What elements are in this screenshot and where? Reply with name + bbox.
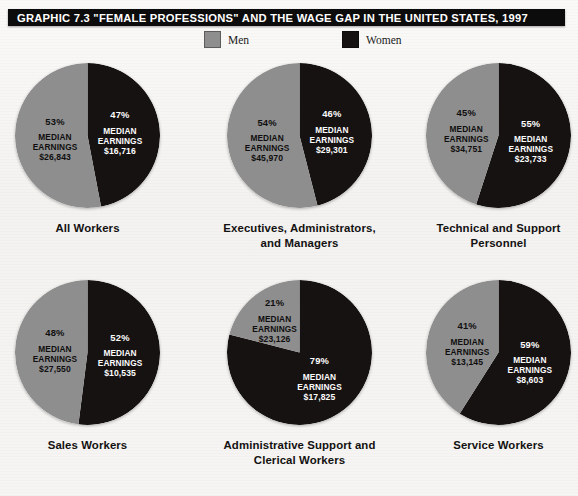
pie-chart-title: Service Workers xyxy=(402,438,578,453)
pie-chart-title: All Workers xyxy=(0,221,184,236)
pie-body xyxy=(426,63,571,208)
pie-chart-cell: 52%MEDIANEARNINGS$10,53548%MEDIANEARNING… xyxy=(0,272,184,453)
pie-chart: 59%MEDIANEARNINGS$8,60341%MEDIANEARNINGS… xyxy=(426,280,571,425)
pie-slice-women xyxy=(88,63,160,207)
pie-chart-title: Administrative Support andClerical Worke… xyxy=(203,438,396,467)
pie-chart-cell: 47%MEDIANEARNINGS$16,71653%MEDIANEARNING… xyxy=(0,55,184,236)
pie-chart-title: Executives, Administrators,and Managers xyxy=(203,221,396,250)
legend: Men Women xyxy=(0,31,578,51)
graphic-title-bar: GRAPHIC 7.3 "FEMALE PROFESSIONS" AND THE… xyxy=(8,9,565,26)
legend-item-women: Women xyxy=(342,31,401,48)
pie-chart-title-line: Technical and Support xyxy=(402,221,578,236)
pie-chart-cell: 79%MEDIANEARNINGS$17,82521%MEDIANEARNING… xyxy=(203,272,396,467)
pie-chart: 52%MEDIANEARNINGS$10,53548%MEDIANEARNING… xyxy=(15,280,160,425)
pie-slice-men xyxy=(15,280,88,424)
pie-chart-cell: 59%MEDIANEARNINGS$8,60341%MEDIANEARNINGS… xyxy=(402,272,578,453)
pie-body xyxy=(426,280,571,425)
page-title: GRAPHIC 7.3 "FEMALE PROFESSIONS" AND THE… xyxy=(8,12,528,24)
legend-item-men: Men xyxy=(204,31,249,48)
pie-chart-title: Sales Workers xyxy=(0,438,184,453)
pie-body xyxy=(15,280,160,425)
pie-body xyxy=(15,63,160,208)
pie-chart-title-line: and Managers xyxy=(203,236,396,251)
legend-label-men: Men xyxy=(228,34,249,46)
pie-chart-cell: 46%MEDIANEARNINGS$29,30154%MEDIANEARNING… xyxy=(203,55,396,250)
legend-label-women: Women xyxy=(366,34,401,46)
pie-chart-title-line: Personnel xyxy=(402,236,578,251)
pie-chart-grid: 47%MEDIANEARNINGS$16,71653%MEDIANEARNING… xyxy=(0,55,578,496)
pie-slice-women xyxy=(78,280,160,425)
legend-swatch-women-icon xyxy=(342,31,359,48)
legend-swatch-men-icon xyxy=(204,31,221,48)
pie-chart-cell: 55%MEDIANEARNINGS$23,73345%MEDIANEARNING… xyxy=(402,55,578,250)
pie-chart: 46%MEDIANEARNINGS$29,30154%MEDIANEARNING… xyxy=(227,63,372,208)
pie-chart: 79%MEDIANEARNINGS$17,82521%MEDIANEARNING… xyxy=(227,280,372,425)
pie-chart-title-line: Clerical Workers xyxy=(203,453,396,468)
pie-chart: 47%MEDIANEARNINGS$16,71653%MEDIANEARNING… xyxy=(15,63,160,208)
pie-chart-title-line: Administrative Support and xyxy=(203,438,396,453)
pie-chart-title-line: Executives, Administrators, xyxy=(203,221,396,236)
pie-chart: 55%MEDIANEARNINGS$23,73345%MEDIANEARNING… xyxy=(426,63,571,208)
pie-body xyxy=(227,63,372,208)
pie-body xyxy=(227,280,372,425)
pie-chart-title: Technical and SupportPersonnel xyxy=(402,221,578,250)
